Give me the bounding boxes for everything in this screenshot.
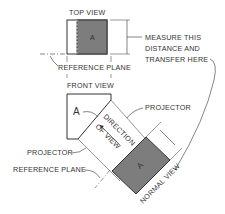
auxiliary-view-diagram: TOP VIEW A REFERENCE PLANE MEASURE THIS … [0,0,225,214]
front-a-label: A [73,106,80,117]
transfer-arrow [175,59,215,170]
front-view-label: FRONT VIEW [67,81,114,90]
leader-arrow [50,56,58,66]
reference-plane-label-bottom: REFERENCE PLANE [13,165,86,174]
reference-plane-line-bottom [95,170,110,188]
dimension-line [160,130,175,145]
measure-label-3: TRANSFER HERE [145,55,208,64]
face-letter-top: A [90,34,95,41]
measure-label-1: MEASURE THIS [145,33,201,42]
leader-arrow [127,108,143,118]
leader-arrow [72,148,86,153]
projector-label-right: PROJECTOR [145,103,191,112]
measure-label-2: DISTANCE AND [145,44,200,53]
extension-line [146,122,161,137]
leader-arrow [85,170,100,178]
top-view-label: TOP VIEW [69,8,105,17]
extension-line [170,148,182,160]
reference-plane-label-top: REFERENCE PLANE [58,63,131,72]
projector-label-left: PROJECTOR [27,148,73,157]
